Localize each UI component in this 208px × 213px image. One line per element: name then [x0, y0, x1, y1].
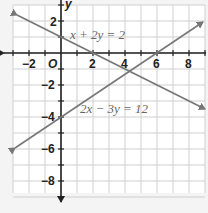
x-tick-label: 8: [185, 57, 192, 71]
x-tick-label: 6: [153, 57, 160, 71]
origin-label: O: [48, 57, 58, 71]
coordinate-graph: −2 O 2 4 6 8 2 −2 −4 −6 −8 y x + 2y = 2 …: [0, 0, 208, 213]
y-tick-label: −8: [41, 174, 55, 188]
y-axis-label: y: [64, 0, 73, 11]
x-tick-label: −2: [22, 57, 36, 71]
equation-label-2: 2x − 3y = 12: [80, 101, 149, 116]
y-tick-label: 2: [50, 15, 57, 29]
x-tick-label: 4: [121, 57, 128, 71]
y-tick-label: −2: [41, 78, 55, 92]
equation-label-1: x + 2y = 2: [69, 27, 126, 42]
y-tick-label: −4: [41, 110, 55, 124]
x-tick-label: 2: [89, 57, 96, 71]
y-tick-label: −6: [41, 142, 55, 156]
